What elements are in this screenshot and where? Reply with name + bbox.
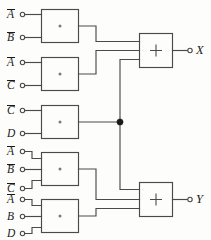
input-label-a-bar-2: A [7, 56, 14, 69]
input-terminal-d-3[interactable] [20, 131, 24, 135]
input-terminal-c-bar-4[interactable] [20, 186, 24, 190]
circuit-schematic-svg [0, 0, 211, 240]
and-gate-2[interactable] [42, 58, 79, 91]
wire-in-4a [25, 152, 42, 159]
input-terminal-a-bar-4[interactable] [20, 149, 24, 153]
input-label-b-bar-1: B [7, 31, 14, 44]
input-label-c-bar-3: C [7, 104, 15, 117]
output-terminal-y[interactable] [188, 197, 192, 201]
logic-circuit-diagram: A B A C C D A B C A B D X Y [0, 0, 211, 240]
and-gate-2-dot-icon [59, 73, 62, 76]
and-gate-5-dot-icon [59, 215, 62, 218]
and-gate-3[interactable] [42, 106, 79, 139]
and-gate-1[interactable] [42, 10, 79, 43]
and-gate-3-dot-icon [59, 121, 62, 124]
and-gate-1-dot-icon [59, 25, 62, 28]
output-terminal-x[interactable] [188, 48, 192, 52]
input-terminal-a-bar-2[interactable] [20, 60, 24, 64]
input-terminal-a-bar-5[interactable] [20, 197, 24, 201]
input-label-b-bar-4: B [7, 163, 14, 176]
wire-in-5c [25, 228, 42, 234]
input-terminal-b-bar-1[interactable] [20, 35, 24, 39]
input-terminal-b-5[interactable] [20, 214, 24, 218]
or-gate-y[interactable] [140, 183, 173, 217]
input-label-a-bar-5: A [7, 193, 14, 206]
wire-junction-to-ory [120, 122, 140, 190]
wire-and5-to-ory [79, 209, 140, 217]
input-terminal-d-5[interactable] [20, 231, 24, 235]
wire-and1-to-orx [79, 26, 140, 42]
wire-junction-to-orx [120, 60, 140, 123]
wire-and2-to-orx [79, 51, 140, 75]
wire-in-5a [25, 200, 42, 206]
input-label-a-bar-4: A [7, 145, 14, 158]
wire-junction-dot [117, 119, 123, 125]
input-label-b-5: B [7, 211, 14, 223]
input-terminal-a-bar-1[interactable] [20, 12, 24, 16]
and-gate-4-dot-icon [59, 168, 62, 171]
wire-and4-to-ory [79, 169, 140, 200]
input-terminal-c-bar-2[interactable] [20, 83, 24, 87]
input-label-c-bar-2: C [7, 79, 15, 92]
wire-in-4c [25, 181, 42, 189]
output-label-x: X [196, 44, 204, 57]
input-terminal-c-bar-3[interactable] [20, 108, 24, 112]
and-gate-4[interactable] [42, 153, 79, 186]
output-label-y: Y [196, 193, 203, 206]
input-label-a-bar-1: A [7, 8, 14, 21]
or-gate-x[interactable] [140, 34, 173, 68]
input-label-d-3: D [7, 128, 15, 140]
input-label-d-5: D [7, 228, 15, 240]
and-gate-5[interactable] [42, 200, 79, 233]
input-terminal-b-bar-4[interactable] [20, 167, 24, 171]
